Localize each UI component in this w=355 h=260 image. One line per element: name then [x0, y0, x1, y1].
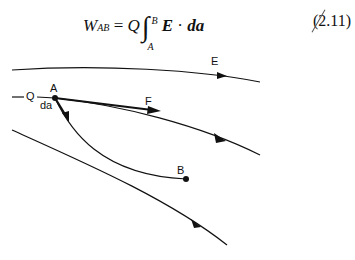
- arrow-icon: [217, 72, 227, 79]
- point-b: [183, 176, 189, 182]
- arrow-icon: [214, 133, 226, 143]
- force-vector: [55, 98, 152, 110]
- point-a: [52, 95, 58, 101]
- field-diagram: [0, 0, 355, 260]
- label-q: Q: [26, 90, 35, 102]
- label-f: F: [145, 95, 152, 107]
- label-da: da: [40, 99, 52, 111]
- path-a-to-b: [55, 98, 186, 179]
- arrow-icon: [191, 219, 201, 228]
- label-b: B: [177, 164, 184, 176]
- field-line-middle: [55, 98, 260, 155]
- label-a: A: [50, 82, 57, 94]
- label-e: E: [211, 55, 218, 67]
- force-arrow-icon: [147, 106, 161, 114]
